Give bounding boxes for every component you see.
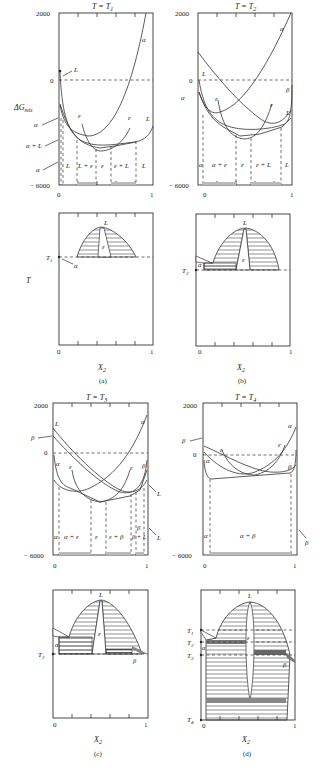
svg-text:2000: 2000	[183, 402, 198, 410]
temp-label-t2: T2	[182, 267, 189, 276]
caption-a: (a)	[99, 377, 107, 385]
svg-text:ε: ε	[242, 256, 245, 264]
svg-text:L: L	[285, 109, 290, 117]
panel-b-phase-diagram: L ε α T2 0 1 X2 (b)	[182, 214, 293, 385]
svg-text:α: α	[54, 533, 58, 541]
svg-text:0: 0	[203, 562, 207, 570]
svg-text:ε: ε	[278, 441, 281, 449]
svg-text:ε: ε	[241, 161, 244, 169]
svg-text:α: α	[280, 25, 284, 33]
svg-text:α: α	[288, 422, 292, 430]
svg-text:L + ε: L + ε	[77, 162, 93, 170]
svg-text:1: 1	[289, 348, 293, 356]
svg-text:0: 0	[203, 191, 207, 199]
panel-b-free-energy: T = T2 2000 0 − 6000 0 1 α L β α ε ε L α…	[169, 2, 294, 199]
svg-text:α: α	[206, 457, 210, 465]
svg-text:X2: X2	[236, 363, 245, 373]
svg-text:0: 0	[198, 348, 202, 356]
svg-text:1: 1	[150, 348, 154, 356]
x-tick-1: 1	[150, 191, 154, 199]
svg-text:− 6000: − 6000	[172, 552, 192, 560]
svg-text:X2: X2	[241, 735, 250, 745]
temp-label-t1: T1	[46, 254, 52, 263]
svg-text:β: β	[181, 437, 186, 445]
svg-text:− 6000: − 6000	[24, 552, 44, 560]
svg-text:X2: X2	[93, 735, 102, 745]
panel-a-free-energy: T = T1 2000 0 − 6000 ΔGmix 0 1 α ε ε L L…	[13, 2, 154, 199]
panel-a-phase-diagram: L ε α T1 T 0 1 X2 (a)	[26, 213, 154, 385]
svg-text:α + L: α + L	[26, 142, 42, 150]
caption-d: (d)	[243, 750, 252, 758]
y-axis-label: ΔGmix	[13, 103, 33, 113]
svg-text:ε: ε	[270, 101, 273, 109]
svg-text:α: α	[36, 166, 40, 174]
svg-text:ε: ε	[95, 533, 98, 541]
svg-text:0: 0	[44, 449, 48, 457]
svg-text:ε + L: ε + L	[256, 161, 271, 169]
svg-text:L: L	[103, 219, 108, 227]
svg-text:ε + L: ε + L	[114, 162, 129, 170]
temp-label-t1: T1	[187, 627, 193, 636]
svg-text:α: α	[142, 36, 146, 44]
svg-text:β: β	[287, 463, 292, 471]
svg-text:ε: ε	[98, 630, 101, 638]
panel-c-phase-diagram: L ε α β T3 0 1 X2 (c)	[38, 590, 148, 758]
svg-text:1: 1	[293, 722, 297, 730]
svg-text:0: 0	[202, 722, 206, 730]
phase-diagram-figure: T = T1 2000 0 − 6000 ΔGmix 0 1 α ε ε L L…	[0, 0, 324, 775]
svg-text:L: L	[201, 70, 206, 78]
svg-text:α + ε: α + ε	[212, 161, 227, 169]
temp-label-t2: T2	[187, 639, 194, 648]
svg-text:− 6000: − 6000	[169, 182, 189, 190]
svg-text:0: 0	[53, 721, 57, 729]
svg-text:α: α	[55, 641, 59, 648]
svg-text:ε + β: ε + β	[109, 533, 124, 541]
svg-text:0: 0	[189, 77, 193, 85]
svg-text:L: L	[141, 162, 146, 170]
svg-text:L: L	[73, 66, 78, 74]
svg-text:α: α	[202, 644, 206, 651]
svg-text:β: β	[141, 462, 146, 470]
temp-label-t3: T3	[187, 652, 194, 661]
caption-b: (b)	[238, 377, 247, 385]
x-axis-label: X2	[97, 363, 106, 373]
panel-d-phase-diagram: L ε α β T1 T2 T3 T4 0 1 X2 (d)	[187, 590, 297, 758]
panel-d-free-energy: T = T4 2000 0 − 6000 0 1 α ε β α ε β β α…	[172, 393, 309, 570]
svg-text:α: α	[56, 460, 60, 468]
svg-text:L: L	[145, 115, 150, 123]
svg-text:α: α	[198, 261, 202, 268]
panel-a-title: T = T1	[92, 2, 113, 12]
svg-text:L: L	[242, 219, 247, 227]
svg-text:ε: ε	[247, 634, 250, 641]
panel-c-title: T = T3	[86, 393, 107, 403]
svg-text:β: β	[30, 434, 35, 442]
svg-text:β: β	[304, 539, 309, 547]
panel-b-title: T = T2	[235, 2, 256, 12]
svg-text:β: β	[285, 86, 290, 94]
y-tick-2000: 2000	[36, 10, 51, 18]
svg-text:ε: ε	[101, 162, 104, 170]
svg-text:L: L	[98, 591, 103, 599]
temp-label-t4: T4	[187, 716, 194, 725]
svg-text:L: L	[247, 592, 252, 599]
caption-c: (c)	[94, 750, 102, 758]
svg-text:0: 0	[57, 348, 61, 356]
panel-d-title: T = T4	[235, 393, 256, 403]
svg-text:α: α	[199, 161, 203, 169]
svg-text:2000: 2000	[34, 402, 49, 410]
svg-text:0: 0	[193, 451, 197, 459]
y-axis-label-t: T	[26, 276, 31, 285]
panel-c-free-energy: T = T3 2000 0 − 6000 0 1 α L β α ε ε β L…	[24, 393, 161, 570]
svg-text:L: L	[284, 161, 289, 169]
svg-text:α + ε: α + ε	[64, 533, 79, 541]
svg-text:α + β: α + β	[240, 532, 256, 540]
svg-text:ε: ε	[128, 114, 131, 122]
svg-text:0: 0	[53, 562, 57, 570]
svg-text:β: β	[136, 524, 141, 531]
svg-text:β + L: β + L	[131, 533, 147, 540]
panel-a-top-frame	[59, 13, 153, 185]
svg-text:1: 1	[290, 191, 294, 199]
svg-text:α: α	[181, 94, 185, 102]
svg-text:2000: 2000	[175, 10, 190, 18]
svg-text:α: α	[34, 121, 38, 129]
